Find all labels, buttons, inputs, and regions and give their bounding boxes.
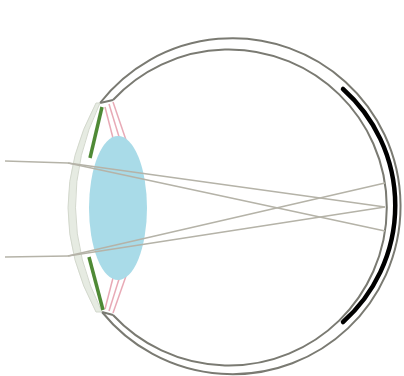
ciliary-body-top	[105, 102, 126, 142]
ray-bottom-incoming	[5, 256, 68, 257]
lens	[89, 136, 147, 280]
light-rays	[5, 161, 385, 257]
ray-top-incoming	[5, 161, 68, 163]
eye-diagram	[0, 0, 404, 376]
ciliary-body-bottom	[105, 274, 126, 313]
